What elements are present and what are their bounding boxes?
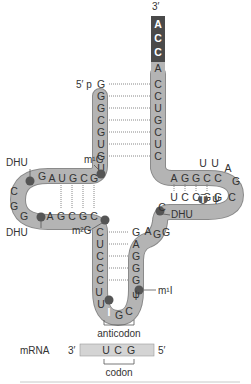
svg-text:C: C [154,126,162,138]
svg-text:G: G [132,250,140,262]
svg-text:G: G [69,172,77,184]
m1g-dot [97,170,106,179]
svg-text:C: C [96,226,104,238]
svg-text:U: U [199,157,207,169]
svg-text:C: C [80,172,88,184]
svg-text:U: U [58,172,66,184]
svg-text:U: U [170,191,178,203]
svg-text:A: A [170,172,177,184]
svg-text:G: G [132,262,140,274]
svg-text:C: C [96,262,104,274]
svg-text:G: G [162,226,170,238]
m1g-label: m¹G [84,154,104,165]
inosine-dot [105,296,114,305]
dhu-right-label: DHU [171,209,193,220]
svg-text:C: C [68,210,76,222]
anticodon-left-strand: C U C C C [96,226,104,286]
svg-text:A: A [154,62,161,74]
m1i-label: m¹I [158,285,172,296]
svg-text:C: C [90,210,98,222]
nucleotide: C [154,32,162,44]
svg-text:U: U [154,102,162,114]
t-base: T [200,193,207,205]
dhu-bottom-dot [37,213,46,222]
svg-text:U: U [96,238,104,250]
svg-text:G: G [97,78,105,90]
svg-text:C: C [228,191,236,203]
codon-base: U [102,344,110,356]
svg-text:C: C [97,114,105,126]
svg-text:U: U [95,286,103,298]
svg-text:A: A [48,172,55,184]
svg-text:C: C [96,250,104,262]
svg-text:G: G [38,170,46,182]
three-prime-label: 3′ [152,1,160,12]
svg-text:C: C [203,172,211,184]
svg-text:C: C [154,90,162,102]
svg-text:G: G [154,114,162,126]
nucleotide: A [154,18,162,30]
codon-label: codon [105,367,132,378]
trna-diagram: 3′ A C C A C C U G C U C 5′ p G G G C G … [0,0,251,384]
svg-text:G: G [79,210,87,222]
svg-text:C: C [10,185,18,197]
svg-text:A: A [46,210,53,222]
svg-text:G: G [97,126,105,138]
svg-text:A: A [132,238,139,250]
svg-text:C: C [96,274,104,286]
modified-bases [26,170,209,305]
svg-text:A: A [224,162,231,174]
codon-base: G [127,344,135,356]
svg-text:U: U [97,298,105,310]
dhu-top-dot [26,177,35,186]
dhu-top-label: DHU [6,157,28,168]
nucleotide: C [154,46,162,58]
svg-text:G: G [97,90,105,102]
svg-text:G: G [97,102,105,114]
svg-text:G: G [181,172,189,184]
five-prime-label: 5′ p [76,79,92,90]
svg-text:U: U [211,157,219,169]
svg-text:G: G [232,175,240,187]
psi-base: ψ [212,192,220,204]
svg-text:G: G [10,200,18,212]
svg-text:U: U [154,138,162,150]
acceptor-base-pairs [109,84,150,156]
svg-text:G: G [132,274,140,286]
svg-text:ψ: ψ [132,288,140,300]
codon-bracket [104,359,134,364]
svg-text:C: C [154,78,162,90]
anticodon-base-pairs [107,232,129,280]
svg-text:U: U [97,138,105,150]
anticodon-label: anticodon [97,328,140,339]
svg-text:I: I [108,306,111,318]
anticodon-right-strand: G A G G G [132,226,140,286]
svg-text:G: G [132,226,140,238]
svg-text:G: G [115,309,123,321]
mrna-5prime-label: 5′ [158,345,166,356]
svg-text:A: A [144,225,151,237]
svg-text:C: C [158,201,166,213]
m2g-label: m²G [72,225,92,236]
svg-text:C: C [125,305,133,317]
mrna-label: mRNA [20,345,50,356]
codon-base: C [114,344,122,356]
svg-text:C: C [214,172,222,184]
svg-text:C: C [181,191,189,203]
svg-text:G: G [57,210,65,222]
dhu-bottom-label: DHU [6,227,28,238]
svg-text:C: C [154,150,162,162]
svg-text:G: G [192,172,200,184]
mrna-3prime-label: 3′ [68,345,76,356]
d-arm-base-pairs [61,185,94,209]
svg-text:G: G [153,228,161,240]
svg-text:G: G [20,210,28,222]
